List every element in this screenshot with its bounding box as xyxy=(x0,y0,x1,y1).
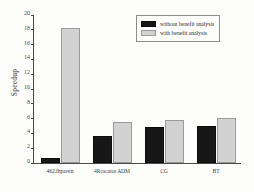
bar xyxy=(61,28,80,163)
y-tick-label: 14 xyxy=(10,54,30,60)
bar-group xyxy=(86,16,138,163)
legend-label: with benefit analysis xyxy=(160,30,207,36)
chart-figure: Speedup 02468101214161820 462.fhparstn4R… xyxy=(0,0,254,192)
y-tick-label: 16 xyxy=(10,40,30,46)
bar-group xyxy=(34,16,86,163)
y-tick-label: 12 xyxy=(10,69,30,75)
bar xyxy=(165,120,184,163)
legend-row: with benefit analysis xyxy=(141,29,214,37)
y-tick-label: 6 xyxy=(10,114,30,120)
bar xyxy=(145,127,164,163)
x-tick-label: 4Rcacatos ADM xyxy=(94,168,130,174)
bar xyxy=(113,122,132,163)
legend-swatch-icon xyxy=(141,30,156,36)
y-tick-label: 8 xyxy=(10,99,30,105)
y-tick-label: 4 xyxy=(10,128,30,134)
bar xyxy=(197,126,216,163)
y-tick-label: 2 xyxy=(10,143,30,149)
y-tick-label: 10 xyxy=(10,84,30,90)
bar xyxy=(41,158,60,163)
legend-row: without benefit analysis xyxy=(141,20,214,28)
chart-legend: without benefit analysiswith benefit ana… xyxy=(136,15,220,42)
x-tick-label: CG xyxy=(160,168,168,174)
x-tick-label: BT xyxy=(213,168,220,174)
x-tick-label: 462.fhparstn xyxy=(47,168,74,174)
legend-label: without benefit analysis xyxy=(160,21,214,27)
y-tick-label: 0 xyxy=(10,158,30,164)
y-tick-label: 18 xyxy=(10,25,30,31)
bar xyxy=(93,136,112,163)
y-tick-label: 20 xyxy=(10,10,30,16)
bar xyxy=(217,118,236,163)
legend-swatch-icon xyxy=(141,21,156,27)
